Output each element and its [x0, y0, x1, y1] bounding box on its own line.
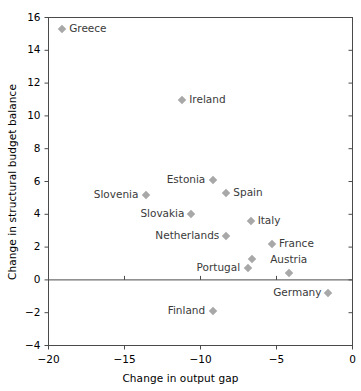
data-point-label: Greece — [69, 22, 106, 34]
data-point-label: Slovenia — [94, 188, 139, 200]
data-point-label: Spain — [233, 186, 262, 198]
y-tick-label: 0 — [11, 273, 41, 285]
data-point-marker[interactable] — [324, 289, 332, 297]
x-axis-title: Change in output gap — [0, 372, 361, 384]
data-point-marker[interactable] — [178, 95, 186, 103]
y-tick-label: 10 — [11, 109, 41, 121]
data-point-marker[interactable] — [248, 254, 256, 262]
zero-line — [49, 276, 353, 280]
y-tick-label: 6 — [11, 175, 41, 187]
y-tick-label: 4 — [11, 207, 41, 219]
y-tick-label: 12 — [11, 76, 41, 88]
y-tick-label: −2 — [11, 306, 41, 318]
data-point-label: Italy — [258, 214, 281, 226]
data-point-label: Germany — [273, 286, 321, 298]
data-point-label: Austria — [270, 253, 307, 265]
data-point-marker[interactable] — [222, 231, 230, 239]
data-point-label: Portugal — [197, 261, 241, 273]
data-point-marker[interactable] — [222, 189, 230, 197]
data-point-label: Slovakia — [140, 207, 184, 219]
data-point-marker[interactable] — [208, 176, 216, 184]
x-tick-label: 0 — [333, 353, 361, 365]
scatter-chart: Change in structural budget balance Chan… — [0, 0, 361, 391]
x-tick-label: −15 — [105, 353, 145, 365]
x-tick-label: −10 — [181, 353, 221, 365]
data-point-marker[interactable] — [268, 240, 276, 248]
y-tick-label: 14 — [11, 43, 41, 55]
y-tick-label: 16 — [11, 11, 41, 23]
data-point-marker[interactable] — [208, 307, 216, 315]
data-point-marker[interactable] — [246, 217, 254, 225]
y-tick-label: −4 — [11, 339, 41, 351]
data-point-label: Finland — [168, 304, 206, 316]
data-point-marker[interactable] — [243, 264, 251, 272]
data-point-marker[interactable] — [187, 210, 195, 218]
y-tick-label: 2 — [11, 240, 41, 252]
y-tick-label: 8 — [11, 142, 41, 154]
x-tick-label: −5 — [257, 353, 297, 365]
data-point-marker[interactable] — [142, 190, 150, 198]
data-point-marker[interactable] — [284, 269, 292, 277]
chart-frame — [0, 0, 361, 391]
x-tick-label: −20 — [29, 353, 69, 365]
data-point-marker[interactable] — [58, 25, 66, 33]
data-point-label: Estonia — [167, 173, 206, 185]
data-point-label: Netherlands — [155, 229, 219, 241]
data-point-label: France — [279, 237, 314, 249]
data-point-label: Ireland — [189, 93, 225, 105]
